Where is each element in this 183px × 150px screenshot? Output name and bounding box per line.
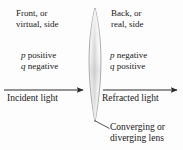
leader-line-icon [95, 121, 110, 129]
front-q-sign-text: negative [26, 61, 59, 71]
back-side-label-line2: real, side [111, 19, 143, 30]
back-side-label-line1: Back, or [111, 8, 143, 19]
optics-sign-convention-figure: Front, or virtual, side Back, or real, s… [0, 0, 183, 150]
front-sign-convention: p positive q negative [21, 50, 58, 71]
incident-light-label: Incident light [7, 93, 58, 104]
back-q-sign-text: positive [115, 61, 146, 71]
back-p-sign-line: p negative [110, 50, 147, 61]
front-side-label-line1: Front, or [16, 8, 59, 19]
front-q-sign-line: q negative [21, 61, 58, 72]
lens-caption-line2: diverging lens [110, 133, 165, 144]
biconvex-lens-icon [89, 8, 101, 122]
lens-caption: Converging or diverging lens [110, 122, 165, 144]
lens-caption-line1: Converging or [110, 122, 165, 133]
back-p-sign-text: negative [115, 50, 148, 60]
refracted-light-label: Refracted light [102, 93, 159, 104]
back-sign-convention: p negative q positive [110, 50, 147, 71]
back-side-label: Back, or real, side [111, 8, 143, 29]
front-side-label: Front, or virtual, side [16, 8, 59, 29]
front-p-sign-line: p positive [21, 50, 58, 61]
back-q-sign-line: q positive [110, 61, 147, 72]
front-p-sign-text: positive [26, 50, 57, 60]
front-side-label-line2: virtual, side [16, 19, 59, 30]
